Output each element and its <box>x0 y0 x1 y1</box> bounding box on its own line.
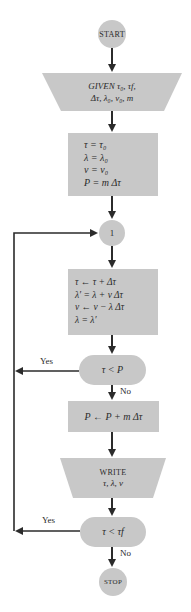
decision1-no-label: No <box>120 386 131 396</box>
start-label: START <box>99 30 125 39</box>
given-line2: Δτ, λ₀, ν₀, m <box>91 92 134 104</box>
update-line-3: ν ← ν − λ Δτ <box>75 301 124 314</box>
pupdate-node: P ← P + m Δτ <box>68 401 159 432</box>
init-line-3: ν = ν₀ <box>84 164 121 177</box>
decision1-label: τ < P <box>102 364 123 376</box>
decision2-yes-label: Yes <box>42 515 55 525</box>
given-line1: GIVEN τ₀, τf, <box>88 80 136 92</box>
write-line2: τ, λ, ν <box>103 477 123 489</box>
update-line-1: τ ← τ + Δτ <box>75 276 124 289</box>
write-line1: WRITE <box>100 468 127 477</box>
init-line-2: λ = λ₀ <box>84 152 121 165</box>
decision2-node: τ < τf <box>80 517 146 547</box>
init-node: τ = τ₀ λ = λ₀ ν = ν₀ P = m Δτ <box>84 139 121 189</box>
pupdate-label: P ← P + m Δτ <box>85 411 143 423</box>
decision1-yes-label: Yes <box>40 356 53 366</box>
decision2-label: τ < τf <box>102 526 124 538</box>
stop-node: STOP <box>97 576 129 588</box>
init-line-4: P = m Δτ <box>84 177 121 190</box>
stop-label: STOP <box>104 578 122 586</box>
update-line-4: λ = λ′ <box>75 314 124 327</box>
write-node: WRITE τ, λ, ν <box>68 462 158 494</box>
init-line-1: τ = τ₀ <box>84 139 121 152</box>
start-node: START <box>96 28 128 40</box>
connector-node: 1 <box>104 226 120 240</box>
update-line-2: λ′ = λ + ν Δτ <box>75 289 124 302</box>
given-node: GIVEN τ₀, τf, Δτ, λ₀, ν₀, m <box>50 76 174 108</box>
update-node: τ ← τ + Δτ λ′ = λ + ν Δτ ν ← ν − λ Δτ λ … <box>75 276 124 326</box>
decision1-node: τ < P <box>79 355 146 385</box>
decision2-no-label: No <box>120 548 131 558</box>
connector-label: 1 <box>110 228 115 238</box>
